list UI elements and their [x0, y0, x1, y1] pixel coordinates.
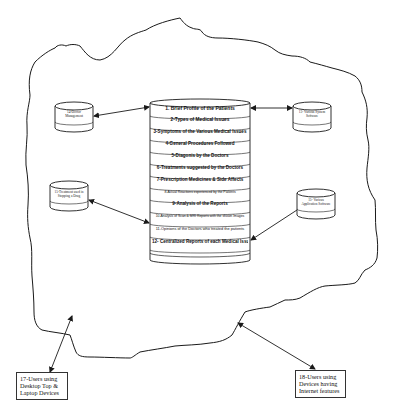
architecture-diagram [0, 0, 394, 415]
users-internet-line-1: 18-Users using [299, 373, 342, 380]
layer-diagnosis: 5-Diagonis by the Doctors [152, 153, 248, 158]
label-system-software: 13- Various System Software [296, 110, 328, 118]
users-desktop-line-1: 17-Users using [20, 375, 64, 382]
layer-procedures: 4-General Procedures Followed [152, 141, 248, 146]
layer-actual-reactions: 8-Actual Reactions experienced by the Pa… [152, 190, 248, 194]
layer-prescriptions: 7-Prescription Medicines & Side Affects [152, 177, 248, 182]
arrow-app-software-to-center [251, 210, 297, 240]
layer-treatments: 6-Treatments suggested by the Doctors [152, 165, 248, 170]
layer-types-of-issues: 2-Types of Medical Issues [152, 117, 248, 122]
users-desktop-line-2: Desktop Top & [20, 382, 64, 389]
label-doctor-management: 14-Doctor Management [58, 110, 90, 118]
users-desktop-laptop-box: 17-Users using Desktop Top & Laptop Devi… [16, 372, 68, 400]
users-internet-line-3: Internet features [299, 387, 342, 394]
layer-analysis-reports: 9-Analysis of the Reports [152, 201, 248, 206]
users-internet-devices-box: 18-Users using Devices having Internet f… [295, 370, 346, 398]
label-application-software: 15- Various Application Software [300, 198, 332, 206]
label-treatment-drug: 15-Treatment used in Stopping a Drug [53, 190, 85, 198]
arrow-cloud-to-right-users [238, 323, 315, 369]
layer-symptoms: 3-Symptoms of the Various Medical Issues [152, 129, 248, 134]
arrow-cloud-to-left-users [50, 316, 72, 372]
layer-doctor-opinions: 11-Opinions of the Doctors who treated t… [152, 226, 248, 231]
arrow-doctor-mgmt-to-center [94, 107, 149, 116]
users-internet-line-2: Devices having [299, 380, 342, 387]
layer-centralized-reports: 12- Centralized Reports of each Medical … [152, 239, 248, 244]
layer-scan-mri: 10-Analysis of Scan & MRI Reports with t… [152, 214, 248, 218]
arrow-treatment-to-center [89, 200, 149, 223]
layer-brief-profile: 1. Brief Profile of the Patients [152, 105, 248, 111]
users-desktop-line-3: Laptop Devices [20, 389, 64, 396]
